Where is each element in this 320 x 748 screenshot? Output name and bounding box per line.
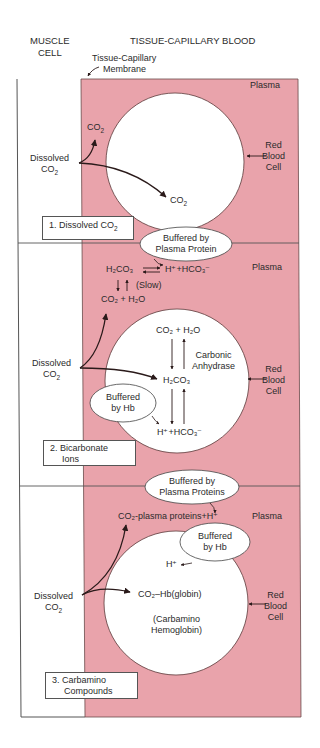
muscle-cell-header: MUSCLE CELL [30,35,70,59]
rbc-label-2-line1: Red [262,364,285,375]
h-plus-label: H⁺ [166,559,178,570]
panel-label-3: 3. Carbamino Compounds [45,672,138,699]
panel-label-2-line1: 2. Bicarbonate [50,443,129,454]
co2-plasma-1: CO2 [87,122,104,133]
source-1-line1: Dissolved [30,153,69,164]
buffer-plasma-protein-line2: Plasma Protein [155,244,216,255]
source-1-sub: 2 [54,169,58,176]
plasma-label-3: Plasma [252,511,282,522]
rbc-label-2: Red Blood Cell [262,364,285,397]
source-1-co: CO [41,164,55,174]
panel-label-1-text: 1. Dissolved CO [49,220,114,230]
co2-cell-1-sub: 2 [184,200,188,207]
co2-cell-1-text: CO [170,195,184,205]
rbc-label-3: Red Blood Cell [264,590,287,623]
tissue-blood-header: TISSUE-CAPILLARY BLOOD [130,35,255,47]
plasma-h2co3: H₂CO₃ [106,264,133,275]
source-2-co: CO [43,369,57,379]
dissolved-co2-source-2: Dissolved CO2 [32,358,71,380]
rbc-label-1: Red Blood Cell [262,140,285,173]
rbc-label-3-line1: Red [264,590,287,601]
source-3-line1: Dissolved [34,591,73,602]
rbc-label-1-line1: Red [262,140,285,151]
enzyme-line2: Anhydrase [192,361,235,372]
buffer-hb-3-line1: Buffered [198,531,232,542]
panel-label-3-line1: 3. Carbamino [52,675,131,686]
buffer-plasma-proteins-line2: Plasma Proteins [159,487,225,498]
co2-hb-globin: CO₂–Hb(globin) [138,589,202,600]
buffer-hb-2-line1: Buffered [106,392,140,403]
rbc-label-1-line2: Blood [262,151,285,162]
carbamino-note-line1: (Carbamino [151,614,202,625]
buffer-hb-label-3: Buffered by Hb [180,523,250,561]
co2-plasma-proteins-product: CO₂-plasma proteins+H⁺ [118,511,218,522]
muscle-cell-header-line1: MUSCLE [30,35,70,47]
source-3-co: CO [45,602,59,612]
plasma-h-hco3: H⁺+HCO₃⁻ [165,264,210,275]
buffer-plasma-protein-label: Buffered by Plasma Protein [140,227,232,261]
plasma-label-2: Plasma [252,262,282,273]
slow-label: (Slow) [136,280,162,291]
plasma-co2-h2o: CO₂ + H₂O [101,294,145,305]
co2-cell-1: CO2 [170,195,187,206]
enzyme-line1: Carbonic [192,350,235,361]
cell-h2co3: H₂CO₃ [163,375,190,386]
buffer-plasma-proteins-label: Buffered by Plasma Proteins [145,470,239,504]
muscle-cell-header-line2: CELL [30,47,70,59]
buffer-hb-3-line2: by Hb [198,542,232,553]
panel-label-2-line2: Ions [50,454,129,465]
buffer-plasma-protein-line1: Buffered by [155,233,216,244]
membrane-label-line2: Membrane [103,64,146,75]
rbc-label-2-line2: Blood [262,375,285,386]
cell-h-hco3: H⁺+HCO₃⁻ [157,427,202,438]
rbc-label-1-line3: Cell [262,162,285,173]
rbc-label-3-line3: Cell [264,612,287,623]
co2-plasma-1-text: CO [87,122,101,132]
carbamino-note-line2: Hemoglobin) [151,625,202,636]
co2-plasma-1-sub: 2 [101,127,105,134]
carbonic-anhydrase-label: Carbonic Anhydrase [192,350,235,372]
buffer-plasma-proteins-line1: Buffered by [159,476,225,487]
source-3-sub: 2 [58,607,62,614]
panel-label-3-line2: Compounds [52,686,131,697]
panel-label-1: 1. Dissolved CO2 [42,216,134,240]
source-2-sub: 2 [56,374,60,381]
red-blood-cell-1 [106,93,244,231]
panel-label-1-sub: 2 [114,225,118,232]
dissolved-co2-source-3: Dissolved CO2 [34,591,73,613]
carbamino-hemoglobin-note: (Carbamino Hemoglobin) [151,614,202,636]
cell-co2-h2o: CO₂ + H₂O [156,325,200,336]
rbc-label-2-line3: Cell [262,386,285,397]
plasma-label-1: Plasma [250,80,280,91]
buffer-hb-2-line2: by Hb [106,403,140,414]
buffer-hb-label-2: Buffered by Hb [90,384,156,422]
source-2-line1: Dissolved [32,358,71,369]
membrane-pointer-arrow [88,67,99,76]
rbc-label-3-line2: Blood [264,601,287,612]
dissolved-co2-source-1: Dissolved CO2 [30,153,69,175]
membrane-label-line1: Tissue-Capillary [92,53,156,64]
panel-label-2: 2. Bicarbonate Ions [43,440,136,466]
